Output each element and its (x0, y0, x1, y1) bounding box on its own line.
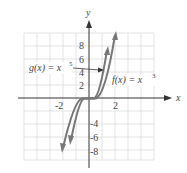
f-arrow-up-icon (112, 31, 118, 40)
g-arrow-down-icon (68, 135, 74, 145)
label-g-pointer (73, 68, 100, 70)
y-tick-6: 6 (79, 54, 84, 65)
x-tick-neg2: -2 (55, 100, 63, 111)
x-axis-label: x (175, 92, 181, 103)
g-arrow-up-icon (104, 46, 110, 55)
label-f-exponent: 3 (152, 72, 156, 80)
label-g: g(x) = x (29, 62, 62, 74)
y-tick-2: 2 (79, 80, 84, 91)
graph: x y -2 2 8 6 4 2 -4 -6 -8 g(x) = x 5 f(x… (0, 0, 187, 173)
label-g-exponent: 5 (69, 60, 73, 68)
x-tick-2: 2 (113, 100, 118, 111)
y-tick-neg8: -8 (90, 146, 98, 157)
y-tick-neg4: -4 (90, 118, 98, 129)
x-axis-arrow-icon (164, 95, 172, 101)
y-tick-neg6: -6 (90, 132, 98, 143)
y-axis-label: y (85, 7, 91, 18)
y-axis-arrow-icon (86, 20, 92, 28)
y-tick-8: 8 (79, 40, 84, 51)
label-f: f(x) = x (112, 74, 143, 86)
